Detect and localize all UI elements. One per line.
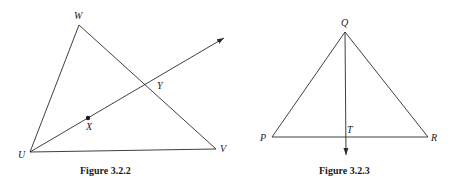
- label-y: Y: [157, 80, 164, 91]
- label-u: U: [18, 149, 26, 160]
- triangle-uvw: [30, 25, 216, 152]
- label-x: X: [85, 121, 93, 132]
- label-t: T: [347, 124, 354, 135]
- label-q: Q: [341, 17, 349, 28]
- ray-ux: [30, 38, 224, 152]
- figure-3-2-2: W U V X Y Figure 3.2.2: [18, 10, 228, 176]
- point-x: [86, 116, 90, 120]
- caption-figure-3-2-3: Figure 3.2.3: [319, 165, 370, 176]
- caption-figure-3-2-2: Figure 3.2.2: [80, 165, 131, 176]
- label-w: W: [74, 10, 84, 21]
- label-v: V: [220, 143, 228, 154]
- label-r: R: [430, 132, 437, 143]
- figure-3-2-3: Q P R T Figure 3.2.3: [259, 17, 437, 176]
- label-p: P: [259, 132, 266, 143]
- triangle-pqr: [272, 32, 428, 137]
- geometry-figures: W U V X Y Figure 3.2.2 Q P R T Figure 3.…: [0, 0, 461, 185]
